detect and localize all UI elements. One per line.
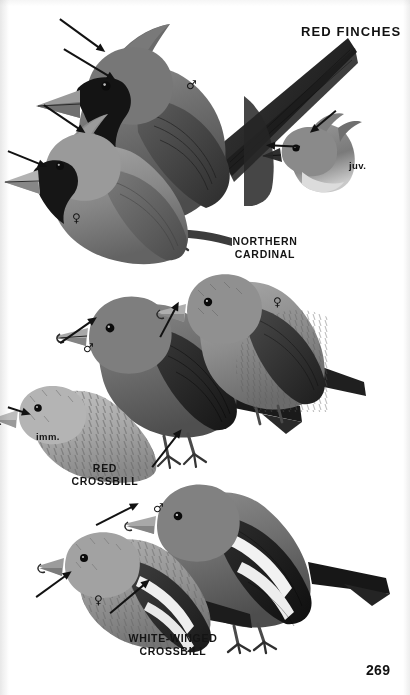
bird-red-crossbill-female (168, 266, 368, 426)
species-label-red-crossbill: RED CROSSBILL (62, 462, 148, 487)
sex-mark-cardinal-female: ♀ (72, 212, 81, 224)
age-mark-red-crossbill-immature: imm. (36, 431, 60, 442)
field-guide-plate-page: RED FINCHES (0, 0, 410, 695)
sex-mark-cardinal-male: ♂ (186, 79, 197, 91)
arrow-head (266, 141, 275, 149)
sex-mark-white-winged-crossbill-female: ♀ (94, 594, 103, 606)
sex-mark-red-crossbill-female: ♀ (273, 296, 282, 308)
sex-mark-white-winged-crossbill-male: ♂ (153, 502, 164, 514)
species-label-northern-cardinal: NORTHERN CARDINAL (222, 235, 308, 260)
plate-shadow-wash-upper (244, 96, 314, 206)
arrow-shaft (274, 145, 300, 148)
sex-mark-red-crossbill-male: ♂ (83, 342, 94, 354)
age-mark-cardinal-juvenile: juv. (349, 160, 366, 171)
arrow-juvenile-bill-icon (266, 140, 300, 152)
bird-northern-cardinal-female (2, 112, 232, 272)
page-number: 269 (366, 662, 390, 678)
species-label-white-winged-crossbill: WHITE-WINGED CROSSBILL (118, 632, 228, 657)
